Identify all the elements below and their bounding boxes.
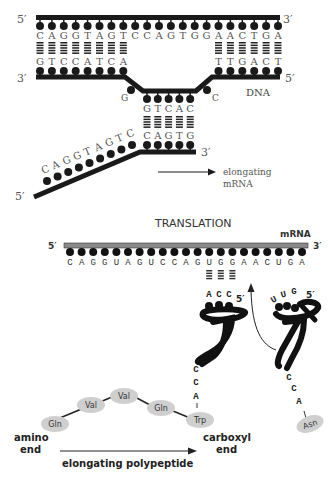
dna-bottom-base: T — [96, 56, 103, 67]
polypeptide-arrow — [60, 448, 197, 455]
trna-left: ACC 5′ CCA — [193, 290, 245, 408]
dna-bottom-base: G — [36, 56, 44, 67]
mrna-codon-base: G — [288, 258, 293, 268]
mrna-diagonal-base: C — [40, 163, 52, 176]
mrna-5prime-label: 5′ — [15, 190, 25, 203]
mrna-codon-base: C — [67, 258, 73, 268]
amino-acid-gln: Gln — [147, 400, 175, 416]
dna-top-strand: 5′ 3′ CAGGTAGTCCAGTGGAACTGA — [17, 13, 293, 41]
trna-left-5prime: 5′ — [236, 294, 245, 304]
mrna-codon-base: A — [241, 258, 247, 268]
amino-end-label-2: end — [20, 444, 41, 455]
dna-top-base: G — [72, 30, 80, 41]
bubble-base: A — [175, 103, 184, 114]
mrna-codon-base: G — [90, 258, 95, 268]
dna-bottom-base: T — [49, 56, 56, 67]
amino-acid-label: Gln — [48, 420, 62, 429]
mrna-codon-base: A — [183, 258, 189, 268]
dna-top-base: A — [226, 30, 235, 41]
mrna-diagonal-base: G — [103, 136, 115, 149]
dna-top-base: T — [120, 30, 127, 41]
mrna-diagonal-base: C — [125, 127, 137, 140]
dna-bottom-base: C — [72, 56, 80, 67]
dna-top-base: A — [47, 30, 56, 41]
dna-top-base: A — [95, 30, 104, 41]
dna-top-5prime-label: 5′ — [17, 13, 27, 26]
amino-acid-label: Trp — [193, 416, 206, 425]
dna-top-base: A — [154, 30, 163, 41]
dna-top-base: G — [167, 30, 175, 41]
dna-bottom-strand: 3′ 5′ GTCCATCATTGACT G C DNA GTCAC — [17, 56, 295, 114]
mrna-paired-base: T — [176, 130, 183, 141]
mrna-paired-base: C — [143, 130, 151, 141]
amino-acid-label: Val — [118, 392, 130, 401]
mrna-label: mRNA — [223, 179, 253, 189]
dna-top-base: G — [203, 30, 211, 41]
mrna-codon-base: A — [125, 258, 131, 268]
carboxyl-end-label: carboxyl — [203, 432, 251, 443]
dna-bottom-base: T — [227, 56, 234, 67]
trna-right-5prime: 5′ — [306, 290, 315, 300]
dna-top-base: G — [107, 30, 115, 41]
dna-top-base: A — [214, 30, 223, 41]
dna-top-base: C — [36, 30, 44, 41]
mrna-diagonal-base: G — [61, 154, 73, 167]
trna-base: C — [193, 365, 199, 375]
mrna-codon-base: U — [206, 258, 211, 268]
dna-top-base: G — [191, 30, 199, 41]
mrna-codon-base: C — [264, 258, 270, 268]
elongating-mrna-strand: 5′ 3′ CAGTG CAGGTAGTC — [15, 127, 211, 203]
dna-bottom-base: C — [108, 56, 116, 67]
trna-base: A — [296, 397, 302, 407]
dna-top-base: G — [60, 30, 68, 41]
amino-acid-val: Val — [77, 397, 105, 413]
trna-base: A — [193, 392, 199, 402]
mrna-codon-base: A — [253, 258, 259, 268]
mrna-paired-base: A — [153, 130, 162, 141]
codon-anticodon-bonds — [206, 270, 235, 279]
dna-bottom-base: C — [262, 56, 270, 67]
mrna-paired-base: G — [186, 130, 194, 141]
trna-base: C — [286, 373, 292, 383]
trna-base: C — [291, 384, 297, 394]
bubble-right-base: C — [212, 93, 219, 103]
amino-acid-trp: Trp — [186, 412, 214, 428]
bubble-base: C — [165, 103, 173, 114]
mrna-codon-base: G — [102, 258, 107, 268]
carboxyl-end-label-2: end — [216, 444, 237, 455]
elongating-label: elongating — [223, 167, 272, 177]
mrna-diagonal-base: T — [82, 145, 93, 158]
mrna-paired-base: G — [165, 130, 173, 141]
mrna-codon-base: U — [276, 258, 281, 268]
mrna-codon-base: G — [218, 258, 223, 268]
dna-bottom-base: A — [83, 56, 92, 67]
mrna-codon-base: U — [148, 258, 153, 268]
mrna-codon-base: G — [195, 258, 200, 268]
trna-base: U — [280, 290, 288, 301]
bubble-base: G — [143, 103, 151, 114]
dna-label: DNA — [246, 87, 271, 98]
amino-acid-gln: Gln — [41, 416, 69, 432]
dna-top-base: T — [84, 30, 91, 41]
trna-base: A — [206, 290, 212, 300]
bubble-base: C — [186, 103, 194, 114]
base-pair-bonds — [37, 42, 282, 54]
elongating-mrna-arrow: elongating mRNA — [158, 167, 272, 189]
dna-bottom-5prime-label: 5′ — [285, 72, 295, 85]
transcription-translation-diagram: 5′ 3′ CAGGTAGTCCAGTGGAACTGA 3′ 5′ GTCCAT… — [0, 0, 328, 479]
mrna-diagonal-base: A — [49, 158, 61, 172]
dna-bottom-base: A — [119, 56, 128, 67]
dna-bottom-base: T — [215, 56, 222, 67]
mrna-codon-base: A — [79, 258, 85, 268]
mrna-codon-base: C — [160, 258, 166, 268]
mrna-diagonal-base: T — [114, 132, 125, 145]
translation-mrna: 5′ 3′ CAGGUAGUCCAGUGGAACUGA — [48, 241, 322, 268]
elongating-polypeptide-label: elongating polypeptide — [62, 458, 194, 469]
mrna-codon-base: A — [299, 258, 305, 268]
bubble-left-base: G — [121, 93, 128, 103]
dna-bottom-base: G — [238, 56, 246, 67]
mrna-codon-base: C — [172, 258, 178, 268]
polypeptide-chain: GlnValValGlnTrp Asn — [41, 388, 326, 436]
amino-acid-val: Val — [110, 388, 138, 404]
mrna-diagonal-base: A — [92, 140, 104, 154]
